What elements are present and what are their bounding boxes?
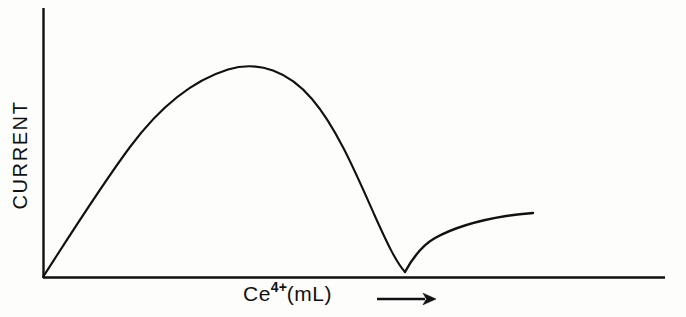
curve-pre-equivalence — [43, 66, 405, 277]
x-label-arrow-icon — [377, 293, 436, 305]
plot-area — [0, 0, 686, 317]
amperometric-titration-figure: CURRENT Ce4+(mL) — [0, 0, 686, 317]
curve-post-equivalence — [405, 213, 533, 272]
